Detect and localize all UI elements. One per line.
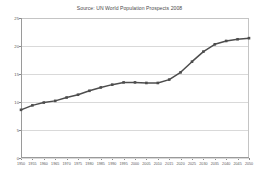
gridline — [21, 158, 249, 159]
y-axis-tick-label: 25 — [1, 16, 19, 21]
x-axis-tick-label: 2015 — [165, 162, 173, 167]
x-axis-tick-label: 2050 — [245, 162, 253, 167]
x-axis-tick-label: 1955 — [28, 162, 36, 167]
data-series-line — [21, 18, 249, 158]
data-point-marker — [145, 82, 148, 85]
x-axis-tick-label: 2030 — [199, 162, 207, 167]
x-axis-tick-label: 1985 — [97, 162, 105, 167]
data-point-marker — [214, 43, 217, 46]
chart-title: Source: UN World Population Prospects 20… — [0, 5, 259, 12]
data-point-marker — [77, 93, 80, 96]
x-axis-tick-label: 1980 — [85, 162, 93, 167]
x-axis-tick-label: 1995 — [119, 162, 127, 167]
y-axis-tick-label: 5 — [1, 128, 19, 133]
data-point-marker — [100, 86, 103, 89]
x-axis-tick-label: 1990 — [108, 162, 116, 167]
x-axis-tick-label: 2020 — [176, 162, 184, 167]
x-axis-tick-label: 1965 — [51, 162, 59, 167]
x-axis-tick-label: 1970 — [62, 162, 70, 167]
x-axis-tick-label: 2040 — [222, 162, 230, 167]
x-axis-tick-label: 2035 — [211, 162, 219, 167]
data-point-marker — [20, 109, 23, 112]
y-axis-tick-label: 10 — [1, 100, 19, 105]
x-axis-tick-label: 1950 — [17, 162, 25, 167]
y-axis-tick-label: 15 — [1, 72, 19, 77]
data-point-marker — [54, 100, 57, 103]
x-axis-tick-label: 1960 — [40, 162, 48, 167]
data-point-marker — [122, 81, 125, 84]
x-axis-tick-label: 2005 — [142, 162, 150, 167]
data-point-marker — [31, 104, 34, 107]
data-point-marker — [225, 40, 228, 43]
data-point-marker — [157, 82, 160, 85]
series-polyline — [21, 38, 249, 110]
data-point-marker — [134, 81, 137, 84]
data-point-marker — [179, 71, 182, 74]
data-point-marker — [236, 38, 239, 41]
chart-container: Source: UN World Population Prospects 20… — [0, 0, 259, 174]
data-point-marker — [88, 90, 91, 93]
data-point-marker — [65, 96, 68, 99]
y-axis-tick-label: 20 — [1, 44, 19, 49]
plot-area — [21, 18, 249, 158]
x-axis-tick-label: 2045 — [233, 162, 241, 167]
x-axis-tick-label: 1975 — [74, 162, 82, 167]
data-point-marker — [202, 50, 205, 53]
y-axis-tick-label: 0 — [1, 156, 19, 161]
x-axis-tick-mark — [249, 158, 250, 160]
data-point-marker — [43, 101, 46, 104]
data-point-marker — [191, 60, 194, 63]
data-point-marker — [248, 37, 251, 40]
x-axis-tick-label: 2025 — [188, 162, 196, 167]
data-point-marker — [168, 78, 171, 81]
x-axis-tick-label: 2000 — [131, 162, 139, 167]
x-axis-tick-label: 2010 — [154, 162, 162, 167]
data-point-marker — [111, 83, 114, 86]
